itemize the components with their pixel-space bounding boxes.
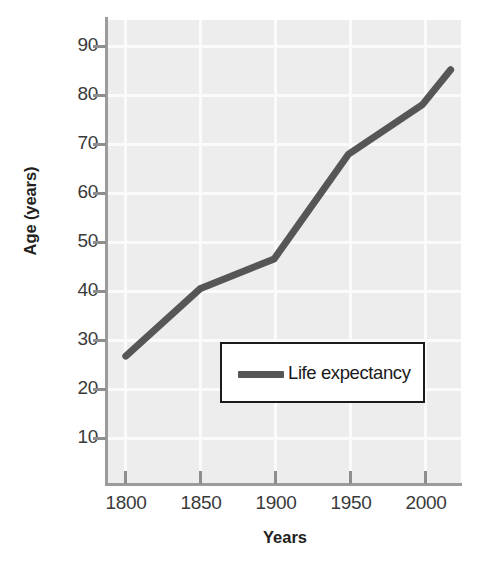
y-tick-label: 90 <box>52 34 98 56</box>
x-tick-label: 1800 <box>91 492 161 514</box>
x-tick-label: 1950 <box>316 492 386 514</box>
y-axis-tick <box>93 339 106 342</box>
legend-label-life-expectancy: Life expectancy <box>288 362 411 384</box>
x-axis-tick <box>424 471 427 484</box>
y-axis-tick <box>93 192 106 195</box>
y-tick-label: 80 <box>52 83 98 105</box>
x-axis-title: Years <box>108 528 462 547</box>
y-axis-tick <box>93 241 106 244</box>
x-axis-line <box>105 483 462 486</box>
y-axis-tick <box>93 94 106 97</box>
x-axis-tick <box>124 471 127 484</box>
x-axis-tick <box>349 471 352 484</box>
x-tick-label: 2000 <box>391 492 461 514</box>
y-tick-label: 60 <box>52 181 98 203</box>
y-tick-label: 50 <box>52 230 98 252</box>
y-tick-label: 10 <box>52 426 98 448</box>
x-axis-tick <box>199 471 202 484</box>
y-axis-tick <box>93 290 106 293</box>
y-tick-label: 30 <box>52 328 98 350</box>
y-tick-label: 20 <box>52 377 98 399</box>
data-series-life-expectancy <box>108 20 461 483</box>
line-chart: Age (years) 90 80 70 60 50 40 30 20 10 <box>0 0 482 574</box>
legend-line-swatch <box>238 371 284 378</box>
plot-area <box>108 20 461 483</box>
x-axis-tick <box>274 471 277 484</box>
y-axis-tick <box>93 388 106 391</box>
y-axis-tick <box>93 143 106 146</box>
y-axis-line <box>105 17 108 486</box>
x-tick-label: 1900 <box>241 492 311 514</box>
x-axis-tick-labels: 1800 1850 1900 1950 2000 <box>0 492 482 518</box>
y-axis-title: Age (years) <box>21 131 43 291</box>
chart-legend: Life expectancy <box>220 342 425 403</box>
y-axis-tick <box>93 45 106 48</box>
y-tick-label: 40 <box>52 279 98 301</box>
y-axis-tick-labels: 90 80 70 60 50 40 30 20 10 <box>52 0 98 574</box>
y-tick-label: 70 <box>52 132 98 154</box>
y-axis-tick <box>93 437 106 440</box>
x-tick-label: 1850 <box>166 492 236 514</box>
